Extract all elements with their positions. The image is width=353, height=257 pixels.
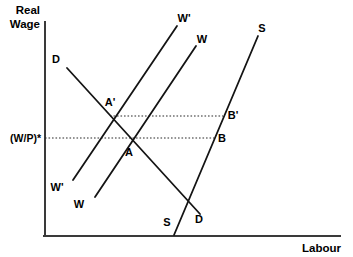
- equilibrium-wage-label: (W/P)*: [10, 132, 42, 144]
- wage-curve-w: [95, 46, 196, 197]
- supply-curve-s: [174, 36, 258, 235]
- point-label-b-prime: B': [228, 109, 239, 121]
- demand-curve-label-bottom: D: [195, 213, 203, 225]
- y-axis-title-line1: Real: [16, 4, 40, 16]
- point-label-a: A: [125, 146, 133, 158]
- point-label-b: B: [218, 132, 226, 144]
- point-label-a-prime: A': [105, 96, 116, 108]
- supply-curve-label-top: S: [258, 22, 265, 34]
- wage-curve-label-bottom: W: [74, 198, 85, 210]
- demand-curve-label-top: D: [52, 53, 60, 65]
- wage-prime-curve-label-top: W': [178, 12, 191, 24]
- wage-prime-curve-label-bottom: W': [51, 181, 64, 193]
- x-axis-title: Labour: [302, 242, 341, 254]
- labour-market-diagram: Real Wage Labour (W/P)* D D S S W' W' W …: [0, 0, 353, 257]
- y-axis-title-line2: Wage: [10, 18, 40, 30]
- chart-canvas: Real Wage Labour (W/P)* D D S S W' W' W …: [0, 0, 353, 257]
- supply-curve-label-bottom: S: [163, 216, 170, 228]
- wage-curve-label-top: W: [197, 33, 208, 45]
